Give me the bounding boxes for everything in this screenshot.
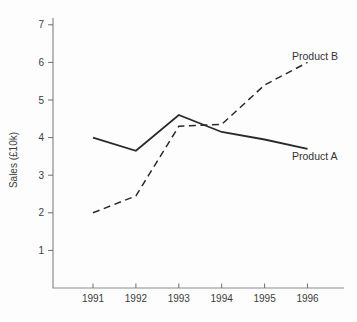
series-line-product-b [93,62,308,212]
x-tick-label: 1994 [211,293,234,304]
series-line-product-a [93,115,308,151]
x-tick-label: 1992 [125,293,148,304]
series-label-product-a: Product A [292,150,338,162]
x-tick-label: 1996 [296,293,319,304]
y-tick-label: 1 [38,245,44,256]
y-tick-label: 5 [38,95,44,106]
y-tick-label: 6 [38,57,44,68]
y-axis-title: Sales (£10k) [8,99,24,221]
y-tick-label: 3 [38,170,44,181]
x-tick-label: 1991 [82,293,105,304]
x-tick-label: 1995 [253,293,276,304]
series-label-product-b: Product B [292,50,338,62]
sales-line-chart: 1234567199119921993199419951996 Sales (£… [0,0,357,322]
x-tick-label: 1993 [168,293,191,304]
y-tick-label: 4 [38,132,44,143]
y-tick-label: 7 [38,19,44,30]
y-tick-label: 2 [38,207,44,218]
